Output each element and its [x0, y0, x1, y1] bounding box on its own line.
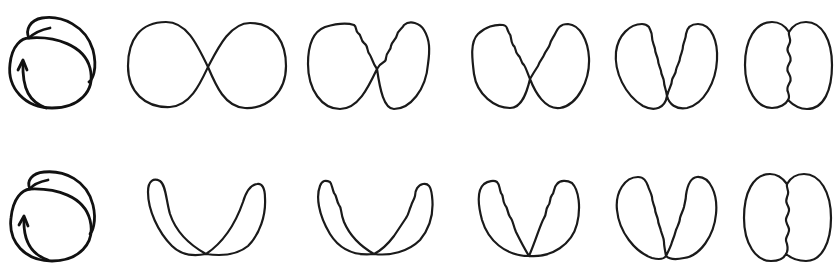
r1-panel-3-wavy-figure-eight — [308, 23, 429, 109]
r1-panel-2-figure-eight — [128, 22, 286, 108]
r2-panel-3-wavy-u-loop — [318, 181, 432, 255]
row-2 — [11, 172, 831, 261]
r2-panel-2-u-loop — [148, 180, 265, 255]
r1-panel-1-loop-with-arrow-icon — [10, 18, 95, 108]
r1-panel-6-joined-lobes — [745, 22, 832, 109]
row-1 — [10, 18, 832, 109]
r1-panel-5-v-lobes — [616, 24, 717, 109]
diagram-canvas — [0, 0, 839, 272]
r2-panel-6-joined-lobes — [744, 174, 831, 261]
diagram-figure: Two rows of six line drawings each; row … — [0, 0, 839, 272]
r1-panel-4-touching-lobes — [472, 24, 589, 108]
r2-panel-1-loop-with-arrow-icon — [11, 172, 95, 261]
r2-panel-4-v-lobes — [479, 181, 579, 256]
r2-panel-5-v-lobes — [617, 177, 717, 259]
